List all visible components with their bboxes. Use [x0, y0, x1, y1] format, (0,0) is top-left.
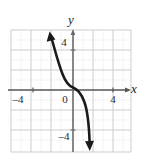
x-tick-label-positive-4: 4	[110, 93, 116, 105]
origin-label: 0	[62, 93, 68, 105]
x-axis-label: x	[130, 81, 137, 96]
y-tick-label-negative-4: –4	[58, 130, 71, 142]
y-tick-label-positive-4: 4	[61, 36, 67, 48]
coordinate-plane-svg: y x 4 –4 –4 0 4	[0, 0, 141, 163]
cubic-curve	[47, 32, 94, 152]
y-axis-label: y	[66, 12, 74, 27]
x-tick-label-negative-4: –4	[12, 93, 25, 105]
graph-figure: y x 4 –4 –4 0 4	[0, 0, 141, 163]
